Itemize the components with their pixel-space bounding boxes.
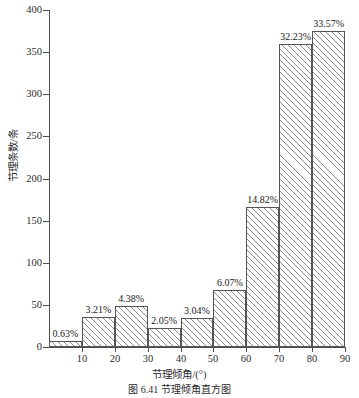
y-axis-tick bbox=[43, 347, 49, 348]
x-axis-tick bbox=[82, 347, 83, 352]
x-axis-tick-label: 90 bbox=[330, 353, 359, 364]
x-axis-tick bbox=[345, 347, 346, 352]
x-axis-tick bbox=[148, 347, 149, 352]
y-axis-tick-label: 150 bbox=[16, 216, 42, 226]
bar-value-label: 32.23% bbox=[269, 32, 323, 42]
x-axis-tick bbox=[246, 347, 247, 352]
x-axis-line bbox=[49, 347, 346, 348]
bar-value-label: 4.38% bbox=[104, 294, 158, 304]
x-axis-tick bbox=[312, 347, 313, 352]
bar-value-label: 3.21% bbox=[71, 305, 125, 315]
bar-value-label: 3.04% bbox=[170, 306, 224, 316]
y-axis-tick-label: 200 bbox=[16, 174, 42, 184]
bar-value-label: 0.63% bbox=[38, 329, 92, 339]
bar-series bbox=[49, 10, 345, 347]
x-axis-tick bbox=[181, 347, 182, 352]
y-axis-tick-label: 0 bbox=[16, 342, 42, 352]
bar-value-label: 2.05% bbox=[137, 316, 191, 326]
bar bbox=[312, 31, 345, 347]
bar bbox=[148, 328, 181, 347]
figure-container: 050100150200250300350400 节理条数/条 10203040… bbox=[0, 0, 359, 398]
bar-value-label: 6.07% bbox=[203, 278, 257, 288]
bar-value-label: 14.82% bbox=[236, 195, 290, 205]
x-axis-tick-label: 60 bbox=[231, 353, 261, 364]
bar-value-label: 33.57% bbox=[302, 19, 356, 29]
x-axis-tick-label: 70 bbox=[264, 353, 294, 364]
x-axis-title: 节理倾角/(°) bbox=[0, 366, 359, 381]
x-axis-tick bbox=[279, 347, 280, 352]
x-axis-tick-label: 40 bbox=[166, 353, 196, 364]
x-axis-tick-label: 20 bbox=[100, 353, 130, 364]
y-axis-title: 节理条数/条 bbox=[5, 108, 20, 204]
y-axis-tick-label: 100 bbox=[16, 258, 42, 268]
x-axis-tick-label: 50 bbox=[198, 353, 228, 364]
y-axis-tick-label: 300 bbox=[16, 89, 42, 99]
bar bbox=[213, 290, 246, 347]
x-axis-tick bbox=[213, 347, 214, 352]
x-axis-tick-label: 30 bbox=[133, 353, 163, 364]
y-axis-tick-label: 250 bbox=[16, 131, 42, 141]
x-axis-tick-label: 80 bbox=[297, 353, 327, 364]
x-axis-tick-label: 10 bbox=[67, 353, 97, 364]
y-axis-tick-label: 50 bbox=[16, 300, 42, 310]
figure-caption: 图 6.41 节理倾角直方图 bbox=[0, 381, 359, 396]
y-axis-tick-label: 350 bbox=[16, 47, 42, 57]
y-axis-tick-label: 400 bbox=[16, 5, 42, 15]
x-axis-tick bbox=[115, 347, 116, 352]
bar bbox=[49, 341, 82, 347]
